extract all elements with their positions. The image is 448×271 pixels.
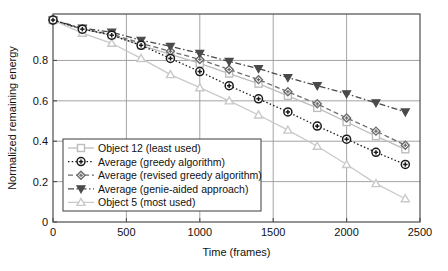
chart-figure: 05001000150020002500 00.20.40.60.8 Time … [0,0,448,271]
x-tick-label: 1000 [188,226,212,238]
legend-label: Average (greedy algorithm) [98,156,225,168]
legend-label: Average (revised greedy algorithm) [98,169,262,181]
x-tick-label: 1500 [261,226,285,238]
y-tick-label: 0 [42,216,48,228]
legend-item-2[interactable]: Average (revised greedy algorithm) [68,169,262,181]
chart-legend: Object 12 (least used)Average (greedy al… [63,139,262,211]
legend-label: Average (genie-aided approach) [98,183,248,195]
x-tick-label: 2000 [334,226,358,238]
x-tick-label: 2500 [408,226,432,238]
y-axis-label: Normalized remaining energy [6,46,18,190]
energy-decay-line-chart: 05001000150020002500 00.20.40.60.8 Time … [0,0,448,271]
chart-background [0,0,448,271]
y-tick-label: 0.6 [33,95,48,107]
x-tick-label: 0 [50,226,56,238]
legend-label: Object 5 (most used) [98,196,195,208]
y-tick-label: 0.4 [33,135,48,147]
marker-square [78,145,85,152]
x-axis-label: Time (frames) [202,246,270,258]
y-tick-label: 0.2 [33,176,48,188]
legend-label: Object 12 (least used) [98,142,201,154]
y-tick-label: 0.8 [33,54,48,66]
x-tick-label: 500 [117,226,135,238]
